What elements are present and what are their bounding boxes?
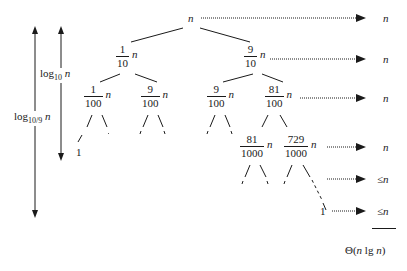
total-cost: Θ(n lg n)	[345, 245, 385, 256]
level-cost-4: ≤n	[377, 173, 389, 185]
tree-node-l3-2: 7291000 n	[284, 134, 317, 159]
tree-leaf-right: 1	[320, 206, 326, 217]
tree-edges-and-arrows	[0, 0, 407, 271]
tree-node-l2-4: 81100 n	[265, 84, 292, 109]
level-cost-5: ≤n	[377, 205, 389, 217]
tree-node-l1-right: 910 n	[244, 44, 266, 69]
sum-rule	[372, 228, 396, 229]
level-cost-1: n	[383, 53, 389, 65]
tree-leaf-left: 1	[76, 147, 82, 158]
level-cost-0: n	[383, 12, 389, 24]
level-cost-2: n	[383, 92, 389, 104]
level-cost-arrows	[201, 18, 356, 211]
level-cost-3: n	[383, 141, 389, 153]
tree-node-l1-left: 110 n	[116, 44, 138, 69]
tree-node-l2-1: 1100 n	[84, 84, 111, 109]
tree-node-l2-3: 9100 n	[207, 84, 234, 109]
tree-node-l2-2: 9100 n	[141, 84, 168, 109]
tree-node-l3-1: 811000 n	[240, 134, 273, 159]
outer-height-label: log10/9 n	[14, 111, 51, 126]
tree-root: n	[188, 13, 194, 24]
inner-height-arrow	[58, 26, 64, 161]
level-cost-arrowheads	[356, 14, 366, 215]
inner-height-label: log10 n	[40, 68, 70, 83]
